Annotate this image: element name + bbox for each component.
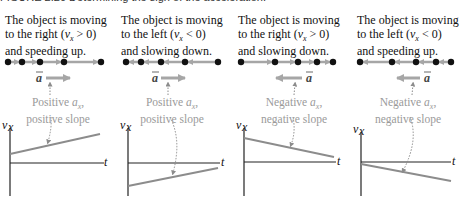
svg-text:t: t bbox=[452, 154, 456, 168]
dotted-pointer-icon bbox=[48, 117, 51, 142]
svg-text:x: x bbox=[358, 124, 365, 138]
velocity-line bbox=[361, 164, 451, 181]
panel-3-motion-diagram bbox=[238, 59, 336, 65]
panel-1-velocity-graph: vx t bbox=[2, 117, 108, 196]
panel-4-velocity-graph: vx t bbox=[353, 117, 456, 196]
svg-text:a: a bbox=[306, 71, 312, 85]
svg-text:t: t bbox=[337, 154, 341, 168]
dotted-pointer-icon bbox=[291, 117, 294, 145]
svg-text:x: x bbox=[125, 120, 132, 134]
panel-4-motion-diagram bbox=[357, 59, 454, 65]
velocity-line bbox=[128, 168, 218, 186]
svg-text:x: x bbox=[7, 120, 14, 134]
panel-3-acceleration-vector: a bbox=[276, 71, 313, 85]
dotted-pointer-icon bbox=[412, 84, 413, 95]
velocity-line bbox=[10, 134, 100, 154]
velocity-line bbox=[244, 138, 334, 157]
panel-1-acceleration-vector: a bbox=[36, 71, 70, 85]
panel-3-velocity-graph: vx t bbox=[236, 117, 341, 196]
panel-2-motion-diagram bbox=[123, 59, 221, 65]
svg-text:a: a bbox=[36, 71, 42, 85]
panel-4-acceleration-vector: a bbox=[397, 71, 431, 85]
svg-text:t: t bbox=[221, 155, 225, 169]
svg-text:a: a bbox=[152, 71, 158, 85]
svg-text:a: a bbox=[424, 71, 430, 85]
dotted-pointer-icon bbox=[403, 117, 413, 171]
svg-text:t: t bbox=[104, 155, 108, 169]
svg-text:x: x bbox=[241, 120, 248, 134]
panel-1-motion-diagram bbox=[5, 59, 104, 65]
dotted-pointer-icon bbox=[294, 84, 295, 95]
panel-2-acceleration-vector: a bbox=[152, 71, 185, 85]
dotted-pointer-icon bbox=[170, 117, 177, 173]
panel-2-velocity-graph: vx t bbox=[120, 117, 225, 196]
